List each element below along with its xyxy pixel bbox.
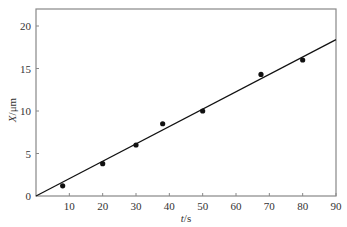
- x-tick-label: 80: [297, 200, 309, 212]
- x-tick-label: 90: [331, 200, 343, 212]
- data-point: [200, 108, 205, 113]
- data-points: [60, 57, 305, 188]
- x-tick-label: 70: [264, 200, 276, 212]
- y-tick-label: 0: [26, 190, 32, 202]
- y-tick-label: 5: [26, 148, 32, 160]
- x-tick-label: 40: [164, 200, 176, 212]
- x-tick-label: 10: [64, 200, 76, 212]
- y-tick-label: 15: [20, 63, 32, 75]
- data-point: [258, 72, 263, 77]
- x-tick-label: 20: [97, 200, 109, 212]
- data-point: [160, 121, 165, 126]
- x-tick-label: 50: [197, 200, 209, 212]
- regression-line: [36, 40, 336, 196]
- fit-line: [36, 40, 336, 196]
- data-point: [133, 142, 138, 147]
- x-tick-label: 60: [231, 200, 243, 212]
- chart: 05101520 102030405060708090 t/s X/μm: [0, 0, 347, 227]
- plot-frame: [36, 9, 336, 196]
- x-tick-label: 30: [131, 200, 143, 212]
- x-axis-label: t/s: [181, 212, 191, 224]
- y-axis-label: X/μm: [6, 97, 18, 123]
- y-tick-label: 20: [20, 20, 32, 32]
- data-point: [300, 57, 305, 62]
- plot-area-border: [36, 9, 336, 196]
- y-tick-label: 10: [20, 105, 32, 117]
- data-point: [100, 161, 105, 166]
- data-point: [60, 183, 65, 188]
